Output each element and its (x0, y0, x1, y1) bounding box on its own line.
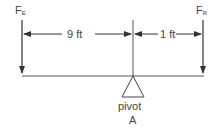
lever-diagram (0, 0, 224, 135)
effort-force-subscript: E (22, 10, 26, 16)
pivot-point-label: A (129, 115, 136, 126)
resistance-arm-label: 1 ft (160, 29, 175, 40)
pivot-label: pivot (118, 101, 141, 112)
resistance-force-subscript: R (203, 10, 207, 16)
pivot-triangle (122, 76, 144, 97)
resistance-force-label: FR (196, 5, 207, 16)
effort-arm-label: 9 ft (67, 29, 82, 40)
effort-force-label: FE (15, 5, 26, 16)
